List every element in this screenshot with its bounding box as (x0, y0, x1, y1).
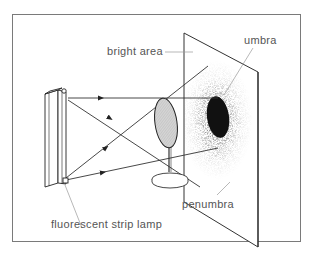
label-umbra: umbra (244, 35, 277, 46)
fluorescent-strip-lamp (45, 88, 68, 187)
label-penumbra: penumbra (182, 199, 234, 210)
opaque-disc (152, 97, 188, 188)
screen (181, 33, 258, 247)
label-bright-area: bright area (107, 46, 163, 57)
diagram-canvas: bright area umbra penumbra fluorescent s… (0, 0, 313, 255)
label-fluorescent-strip-lamp: fluorescent strip lamp (51, 219, 162, 230)
